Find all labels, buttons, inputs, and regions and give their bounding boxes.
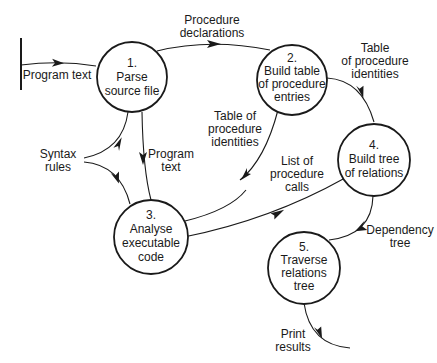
- svg-text:Table of: Table of: [214, 109, 257, 123]
- flow-3-connector: [185, 190, 246, 221]
- svg-text:calls: calls: [285, 180, 309, 194]
- svg-text:List of: List of: [281, 154, 314, 168]
- process-4-label-line1: Build tree: [349, 152, 400, 166]
- svg-text:identities: identities: [211, 135, 258, 149]
- svg-text:Program: Program: [148, 147, 194, 161]
- flow-label-program-text-1-to-3: Program text: [148, 147, 194, 174]
- svg-text:text: text: [161, 160, 181, 174]
- flow-print-results: [304, 303, 350, 348]
- process-2-label-line3: entries: [274, 90, 310, 104]
- flow-label-syntax-rules: Syntax rules: [40, 147, 77, 174]
- process-1-parse-source-file: 1. Parse source file: [97, 42, 167, 112]
- process-5-label-line3: tree: [294, 279, 315, 293]
- process-5-label-line1: Traverse: [281, 253, 328, 267]
- process-2-number: 2.: [287, 51, 297, 65]
- process-2-build-table: 2. Build table of procedure entries: [257, 45, 327, 115]
- process-3-label-line1: Analyse: [130, 222, 173, 236]
- process-3-label-line2: executable: [122, 236, 180, 250]
- svg-text:Syntax: Syntax: [40, 147, 77, 161]
- process-2-label-line1: Build table: [264, 64, 320, 78]
- process-5-label-line2: relations: [281, 266, 326, 280]
- flow-label-table-to-4: Table of procedure identities: [341, 41, 409, 81]
- process-1-number: 1.: [127, 56, 137, 70]
- flow-table-to-4: [327, 78, 374, 122]
- process-1-label-line1: Parse: [116, 70, 148, 84]
- process-3-number: 3.: [146, 208, 156, 222]
- flow-label-procedure-declarations: Procedure declarations: [180, 13, 245, 40]
- flow-label-dependency-tree: Dependency tree: [366, 223, 433, 250]
- flow-syntax-to-3: [84, 162, 130, 204]
- svg-text:of procedure: of procedure: [341, 54, 409, 68]
- flow-label-print-results: Print results: [275, 327, 310, 354]
- flow-syntax-to-1: [84, 112, 128, 158]
- process-5-number: 5.: [299, 240, 309, 254]
- flow-label-program-text-in: Program text: [23, 68, 92, 82]
- process-3-label-line3: code: [138, 250, 164, 264]
- process-2-label-line2: of procedure: [258, 77, 326, 91]
- process-1-label-line2: source file: [105, 84, 160, 98]
- svg-text:Print: Print: [281, 327, 306, 341]
- svg-text:tree: tree: [390, 236, 411, 250]
- process-4-label-line2: of relations: [345, 166, 404, 180]
- process-4-build-tree-of-relations: 4. Build tree of relations: [338, 124, 410, 196]
- process-5-traverse-relations-tree: 5. Traverse relations tree: [268, 232, 340, 304]
- flow-label-list-of-procedure-calls: List of procedure calls: [270, 154, 324, 194]
- flow-program-text-in: [21, 59, 96, 67]
- svg-text:identities: identities: [351, 67, 398, 81]
- flow-label-table-to-3: Table of procedure identities: [208, 109, 262, 149]
- svg-text:Table: Table: [361, 41, 390, 55]
- svg-text:Procedure: Procedure: [184, 13, 240, 27]
- svg-text:rules: rules: [45, 160, 71, 174]
- svg-text:procedure: procedure: [208, 122, 262, 136]
- process-4-number: 4.: [369, 138, 379, 152]
- svg-text:Dependency: Dependency: [366, 223, 433, 237]
- svg-text:procedure: procedure: [270, 167, 324, 181]
- flow-list-of-procedure-calls: [184, 178, 345, 237]
- process-3-analyse-executable-code: 3. Analyse executable code: [114, 200, 188, 274]
- svg-text:declarations: declarations: [180, 26, 245, 40]
- svg-text:results: results: [275, 340, 310, 354]
- data-flow-diagram: 1. Parse source file 2. Build table of p…: [0, 0, 437, 363]
